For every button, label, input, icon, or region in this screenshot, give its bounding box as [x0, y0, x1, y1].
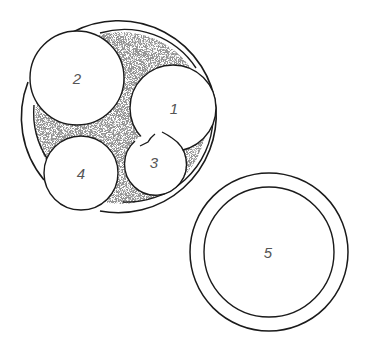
circle-1-label: 1: [170, 100, 178, 117]
diagram-canvas: 2 1 3 4 5: [0, 0, 366, 344]
dish-5-label: 5: [264, 244, 273, 261]
circle-2-label: 2: [72, 70, 82, 87]
circle-2: 2: [30, 31, 124, 125]
dish-5: 5: [190, 173, 348, 331]
circle-4-label: 4: [77, 165, 85, 182]
circle-4: 4: [44, 136, 118, 210]
circle-3-label: 3: [150, 154, 159, 171]
